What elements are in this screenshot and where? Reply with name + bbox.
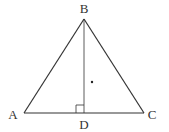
- label-b: B: [80, 1, 89, 16]
- label-a: A: [8, 107, 18, 122]
- segment-ab: [24, 19, 84, 113]
- label-c: C: [148, 107, 157, 122]
- triangle-diagram: B A C D: [0, 0, 169, 132]
- right-angle-marker: [76, 105, 84, 113]
- marked-point: [91, 81, 93, 83]
- label-d: D: [79, 117, 88, 132]
- segment-bc: [84, 19, 144, 113]
